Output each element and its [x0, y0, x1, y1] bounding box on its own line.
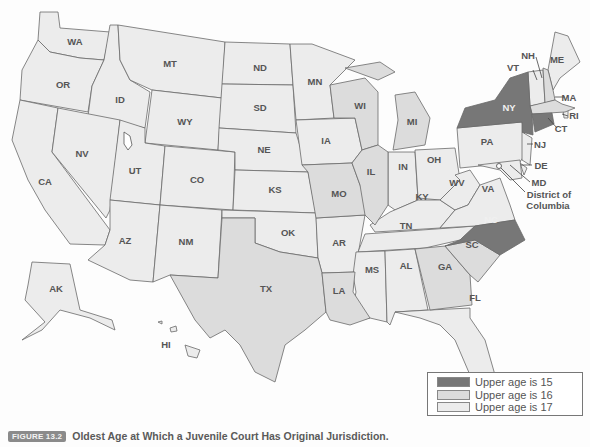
label-ar: AR [332, 237, 346, 248]
label-mt: MT [163, 58, 177, 69]
state-ak[interactable] [22, 262, 115, 340]
label-ma: MA [562, 92, 577, 103]
label-or: OR [56, 79, 70, 90]
label-ks: KS [268, 184, 281, 195]
figure-caption: FIGURE 13.2 Oldest Age at Which a Juveni… [8, 430, 389, 442]
legend-label: Upper age is 17 [475, 401, 553, 413]
label-tx: TX [260, 283, 273, 294]
label-mn: MN [308, 76, 323, 87]
legend-label: Upper age is 15 [475, 376, 553, 388]
label-ms: MS [365, 264, 379, 275]
label-nj: NJ [534, 139, 546, 150]
label-il: IL [367, 166, 376, 177]
label-ia: IA [321, 135, 331, 146]
label-ky: KY [415, 191, 429, 202]
label-nc: NC [484, 214, 498, 225]
figure-tag: FIGURE 13.2 [8, 431, 66, 442]
label-sc: SC [465, 239, 478, 250]
dc-marker-icon [497, 164, 502, 169]
label-mi: MI [407, 116, 418, 127]
label-az: AZ [119, 235, 132, 246]
label-wa: WA [67, 36, 82, 47]
label-dc-line1: District of [527, 189, 572, 200]
label-oh: OH [427, 154, 441, 165]
label-ri: RI [569, 110, 579, 121]
label-al: AL [400, 260, 413, 271]
label-wv: WV [449, 177, 465, 188]
legend-item-age15: Upper age is 15 [437, 376, 582, 389]
label-ct: CT [555, 123, 568, 134]
label-nm: NM [179, 236, 194, 247]
legend: Upper age is 15 Upper age is 16 Upper ag… [427, 372, 583, 416]
label-wi: WI [354, 100, 366, 111]
state-vt[interactable] [528, 70, 545, 106]
label-mo: MO [331, 188, 346, 199]
label-ok: OK [281, 227, 295, 238]
label-la: LA [333, 285, 346, 296]
label-wy: WY [177, 116, 193, 127]
legend-label: Upper age is 16 [475, 389, 553, 401]
swatch-age15 [437, 377, 470, 387]
legend-item-age16: Upper age is 16 [437, 389, 582, 402]
label-ak: AK [49, 283, 63, 294]
label-ny: NY [502, 102, 516, 113]
label-tn: TN [400, 220, 413, 231]
state-nj[interactable] [522, 132, 532, 165]
swatch-age16 [437, 390, 470, 400]
label-hi: HI [161, 339, 171, 350]
legend-item-age17: Upper age is 17 [437, 401, 582, 414]
label-dc-line2: Columbia [526, 200, 570, 211]
label-va: VA [482, 183, 495, 194]
label-md: MD [532, 177, 547, 188]
label-nd: ND [253, 62, 267, 73]
label-sd: SD [253, 102, 266, 113]
us-map: WA OR CA ID NV MT WY UT AZ CO NM ND SD N… [0, 0, 590, 420]
figure-title: Oldest Age at Which a Juvenile Court Has… [72, 430, 388, 442]
label-ca: CA [38, 176, 52, 187]
label-ne: NE [257, 144, 270, 155]
label-ut: UT [129, 165, 142, 176]
label-id: ID [115, 94, 125, 105]
label-me: ME [550, 54, 564, 65]
label-nh: NH [521, 50, 535, 61]
swatch-age17 [437, 402, 470, 412]
label-co: CO [190, 174, 204, 185]
label-in: IN [398, 161, 408, 172]
label-fl: FL [469, 292, 481, 303]
label-ga: GA [438, 261, 452, 272]
label-de: DE [534, 160, 547, 171]
label-nv: NV [75, 148, 89, 159]
state-ct[interactable] [532, 113, 554, 132]
label-pa: PA [481, 136, 494, 147]
label-vt: VT [507, 62, 519, 73]
